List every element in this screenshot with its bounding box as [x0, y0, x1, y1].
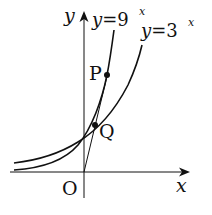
- origin-label: O: [62, 177, 78, 199]
- label-3-pow-x-exp: x: [188, 16, 195, 29]
- label-9-pow-x: y=9 x: [91, 5, 146, 30]
- y-axis-label: y: [63, 4, 75, 26]
- x-axis-label: x: [176, 174, 187, 196]
- label-3-pow-x: y=3 x: [140, 16, 195, 41]
- exponential-graph-diagram: y x O P Q y=9 x y=3 x: [0, 0, 212, 215]
- label-3-pow-x-base: y=3: [140, 20, 178, 41]
- label-9-pow-x-exp: x: [139, 5, 146, 18]
- label-9-pow-x-base: y=9: [91, 9, 129, 30]
- point-q: [92, 122, 98, 128]
- point-p: [104, 72, 110, 78]
- point-p-label: P: [89, 62, 102, 84]
- point-q-label: Q: [99, 120, 115, 142]
